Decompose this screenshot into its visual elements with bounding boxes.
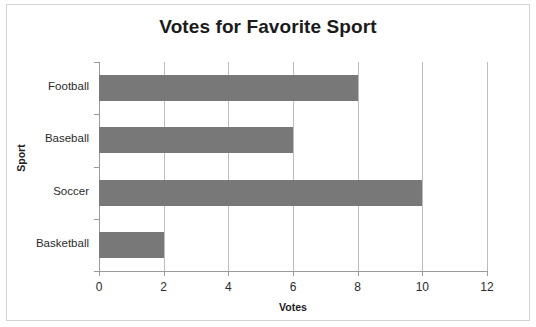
x-axis-tick	[358, 271, 359, 276]
x-axis-tick-label: 10	[402, 280, 442, 294]
x-axis-tick	[293, 271, 294, 276]
x-axis-tick-label: 12	[467, 280, 507, 294]
y-axis-category-label: Football	[3, 80, 89, 92]
bar	[99, 75, 358, 101]
x-axis-tick	[487, 271, 488, 276]
x-axis-tick-label: 4	[208, 280, 248, 294]
y-axis-tick	[94, 271, 99, 272]
bar	[99, 127, 293, 153]
y-axis-tick	[94, 114, 99, 115]
y-axis-tick	[94, 167, 99, 168]
y-axis-category-label: Basketball	[3, 237, 89, 249]
x-axis-tick-label: 2	[144, 280, 184, 294]
bar	[99, 180, 422, 206]
x-axis-tick-label: 0	[79, 280, 119, 294]
plot-area	[99, 62, 487, 271]
x-axis-tick-label: 8	[338, 280, 378, 294]
bar	[99, 232, 164, 258]
y-axis-tick	[94, 62, 99, 63]
x-gridline	[487, 62, 488, 271]
x-axis-tick	[422, 271, 423, 276]
x-axis-title: Votes	[99, 301, 487, 313]
chart-figure: Votes for Favorite Sport Votes Sport 024…	[0, 0, 536, 327]
chart-title: Votes for Favorite Sport	[0, 16, 536, 38]
y-axis-category-label: Soccer	[3, 185, 89, 197]
x-gridline	[358, 62, 359, 271]
x-axis-tick-label: 6	[273, 280, 313, 294]
y-axis-category-label: Baseball	[3, 132, 89, 144]
x-gridline	[422, 62, 423, 271]
x-axis-tick	[164, 271, 165, 276]
x-axis-tick	[99, 271, 100, 276]
y-axis-tick	[94, 219, 99, 220]
x-axis-tick	[228, 271, 229, 276]
